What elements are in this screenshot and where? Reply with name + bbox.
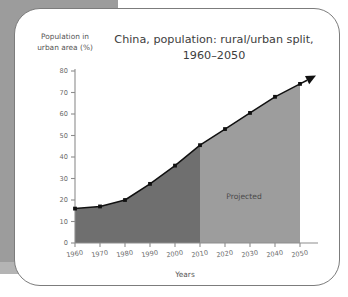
y-axis-label-line2: urban area (%) <box>37 43 93 52</box>
y-tick-label: 40 <box>60 153 68 161</box>
projected-area-fill <box>200 84 300 243</box>
x-tick-label: 1990 <box>141 249 159 260</box>
y-tick-label: 70 <box>60 89 68 97</box>
data-point-marker <box>123 198 127 202</box>
y-axis-tick-labels: 01020304050607080 <box>60 67 68 247</box>
y-tick-label: 30 <box>60 175 68 183</box>
data-point-marker <box>148 182 152 186</box>
y-tick-label: 60 <box>60 110 68 118</box>
x-tick-label: 2000 <box>166 249 184 260</box>
data-point-marker <box>273 95 277 99</box>
x-tick-label: 1980 <box>116 249 134 260</box>
x-tick-label: 1960 <box>66 249 84 260</box>
x-tick-label: 2050 <box>291 249 309 260</box>
x-tick-label: 2020 <box>216 249 234 260</box>
x-axis-tick-labels: 1960197019801990200020102020203020402050 <box>66 249 309 260</box>
data-point-marker <box>248 111 252 115</box>
chart-svg: 01020304050607080 1960197019801990200020… <box>0 0 348 297</box>
y-tick-label: 0 <box>64 239 68 247</box>
y-axis-label-line1: Population in <box>41 32 89 41</box>
x-axis-label: Years <box>174 270 195 279</box>
chart-plot-area: 01020304050607080 1960197019801990200020… <box>0 0 348 297</box>
y-tick-label: 20 <box>60 196 68 204</box>
data-point-marker <box>98 205 102 209</box>
projected-annotation: Projected <box>226 192 262 201</box>
y-axis-ticks <box>71 71 75 243</box>
x-tick-label: 1970 <box>91 249 109 260</box>
x-tick-label: 2010 <box>191 249 209 260</box>
x-axis-ticks <box>75 243 300 247</box>
chart-title-line2: 1960–2050 <box>183 49 246 62</box>
data-point-marker <box>73 207 77 211</box>
y-tick-label: 50 <box>60 132 68 140</box>
data-point-marker <box>173 164 177 168</box>
x-tick-label: 2040 <box>266 249 284 260</box>
chart-title-line1: China, population: rural/urban split, <box>114 33 313 46</box>
data-point-marker <box>223 127 227 131</box>
y-tick-label: 80 <box>60 67 68 75</box>
x-tick-label: 2030 <box>241 249 259 260</box>
data-point-marker <box>198 143 202 147</box>
figure-page: 01020304050607080 1960197019801990200020… <box>0 0 348 297</box>
y-tick-label: 10 <box>60 218 68 226</box>
